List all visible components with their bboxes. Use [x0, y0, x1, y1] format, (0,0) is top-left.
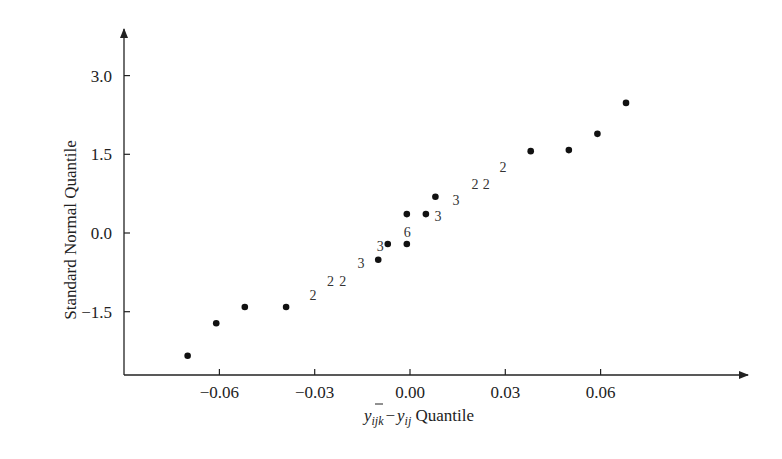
y-tick-label: 1.5 [91, 145, 112, 164]
count-label: 2 [310, 288, 317, 303]
y-tick-label: −1.5 [81, 303, 112, 322]
y-ticks: 3.01.50.0−1.5 [81, 67, 130, 322]
data-point [283, 304, 290, 311]
qq-plot: 3.01.50.0−1.5 −0.06−0.030.000.030.06 Sta… [0, 0, 782, 459]
x-tick-label: −0.06 [200, 383, 239, 402]
y-tick-label: 3.0 [91, 67, 112, 86]
data-point [423, 211, 430, 218]
x-tick-label: −0.03 [295, 383, 334, 402]
data-point [527, 148, 534, 155]
data-point [432, 193, 439, 200]
count-label: 2 [339, 274, 346, 289]
data-point [404, 241, 411, 248]
x-tick-label: 0.03 [490, 383, 520, 402]
data-point [213, 320, 220, 327]
multiplicity-labels: 22233633222 [310, 160, 507, 303]
data-point [594, 131, 601, 138]
y-tick-label: 0.0 [91, 224, 112, 243]
x-axis-title: yijk−yij Quantile [362, 404, 474, 428]
data-point [184, 352, 191, 359]
count-label: 3 [377, 239, 384, 254]
count-label: 2 [327, 274, 334, 289]
count-label: 2 [472, 177, 479, 192]
svg-text:yijk−yij Quantile: yijk−yij Quantile [362, 406, 474, 428]
count-label: 2 [500, 160, 507, 175]
x-tick-label: 0.00 [395, 383, 425, 402]
data-point [566, 147, 573, 154]
x-ticks: −0.06−0.030.000.030.06 [200, 369, 616, 402]
count-label: 3 [434, 209, 441, 224]
data-point [623, 100, 630, 107]
data-point [242, 304, 249, 311]
x-tick-label: 0.06 [586, 383, 616, 402]
data-point [384, 241, 391, 248]
count-label: 6 [404, 225, 411, 240]
y-axis-title: Standard Normal Quantile [61, 140, 80, 319]
count-label: 3 [453, 193, 460, 208]
data-point [375, 256, 382, 263]
data-point [404, 211, 411, 218]
count-label: 2 [483, 177, 490, 192]
count-label: 3 [358, 256, 365, 271]
